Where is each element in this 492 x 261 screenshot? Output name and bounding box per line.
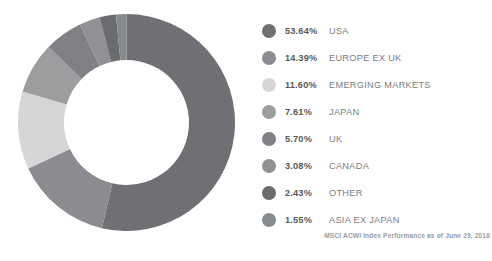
donut-slice-group [18, 14, 235, 231]
legend-item[interactable]: 14.39% EUROPE EX UK [262, 44, 488, 71]
legend-swatch-europe-ex-uk [262, 51, 276, 65]
legend-swatch-asia-ex-japan [262, 213, 276, 227]
chart-legend: 53.64% USA 14.39% EUROPE EX UK 11.60% EM… [262, 17, 488, 233]
legend-swatch-japan [262, 105, 276, 119]
legend-percent: 2.43% [285, 188, 329, 198]
legend-swatch-emerging-markets [262, 78, 276, 92]
legend-percent: 14.39% [285, 53, 329, 63]
legend-label: JAPAN [329, 107, 359, 117]
legend-percent: 11.60% [285, 80, 329, 90]
legend-label: OTHER [329, 188, 363, 198]
legend-item[interactable]: 53.64% USA [262, 17, 488, 44]
legend-item[interactable]: 5.70% UK [262, 125, 488, 152]
legend-percent: 53.64% [285, 26, 329, 36]
legend-item[interactable]: 11.60% EMERGING MARKETS [262, 71, 488, 98]
legend-item[interactable]: 1.55% ASIA EX JAPAN [262, 206, 488, 233]
legend-label: UK [329, 134, 342, 144]
legend-label: ASIA EX JAPAN [329, 215, 400, 225]
legend-swatch-uk [262, 132, 276, 146]
legend-percent: 7.61% [285, 107, 329, 117]
legend-item[interactable]: 7.61% JAPAN [262, 98, 488, 125]
legend-percent: 5.70% [285, 134, 329, 144]
donut-chart [16, 12, 237, 233]
legend-percent: 1.55% [285, 215, 329, 225]
legend-label: EUROPE EX UK [329, 53, 402, 63]
legend-percent: 3.08% [285, 161, 329, 171]
donut-chart-svg [16, 12, 237, 233]
chart-page: 53.64% USA 14.39% EUROPE EX UK 11.60% EM… [0, 0, 492, 261]
legend-swatch-canada [262, 159, 276, 173]
legend-swatch-usa [262, 24, 276, 38]
legend-label: EMERGING MARKETS [329, 80, 431, 90]
legend-item[interactable]: 2.43% OTHER [262, 179, 488, 206]
chart-footnote: MSCI ACWI Index Performance as of June 2… [262, 232, 490, 239]
legend-label: USA [329, 26, 349, 36]
legend-swatch-other [262, 186, 276, 200]
legend-item[interactable]: 3.08% CANADA [262, 152, 488, 179]
legend-label: CANADA [329, 161, 369, 171]
